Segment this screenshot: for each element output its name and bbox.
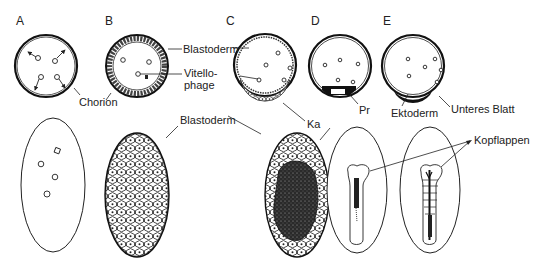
- embryo-development-diagram: A B C D E Chorion Blastoderm Vitello- ph…: [0, 0, 545, 262]
- panel-letter-a: A: [16, 14, 24, 28]
- label-blastoderm-top: Blastoderm: [183, 43, 239, 55]
- panel-letter-d: D: [311, 14, 320, 28]
- panel-letter-e: E: [383, 14, 391, 28]
- panel-b: [105, 35, 182, 257]
- label-blastoderm-bottom: Blastoderm: [180, 114, 236, 126]
- diagram-drawing: [0, 0, 545, 262]
- label-chorion: Chorion: [79, 96, 118, 108]
- panel-letter-b: B: [105, 14, 113, 28]
- panel-a: [15, 35, 85, 252]
- label-pr: Pr: [359, 104, 370, 116]
- panel-e: [382, 35, 460, 253]
- label-vitellophage-line1: Vitello-: [184, 67, 217, 79]
- label-kopflappen: Kopflappen: [474, 134, 530, 146]
- label-ektoderm: Ektoderm: [391, 107, 438, 119]
- panel-letter-c: C: [226, 14, 235, 28]
- label-ka: Ka: [307, 118, 320, 130]
- label-vitellophage-line2: phage: [184, 79, 215, 91]
- label-unteres-blatt: Unteres Blatt: [451, 103, 515, 115]
